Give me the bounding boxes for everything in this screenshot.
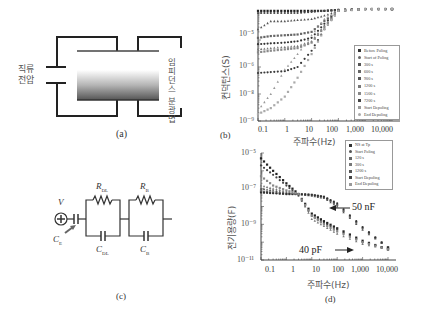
circle-marker-icon [358, 92, 361, 95]
panel-d-capacitance-chart: 전기용량(F) 10⁻⁵ 10⁻⁷ 10⁻⁹ 10⁻¹¹ 0.1 1 10 10… [211, 150, 422, 321]
ytick-b-2: 10⁻⁸ [239, 89, 254, 98]
square-marker-icon [358, 85, 361, 88]
square-marker-icon [358, 99, 361, 102]
triangle-left-marker-icon [349, 176, 352, 179]
circle-marker-icon [358, 113, 361, 116]
xtick-d-1: 1 [291, 265, 295, 274]
legend-item: Start of Poling [358, 54, 396, 61]
xtick-b-1: 1 [285, 125, 289, 134]
legend-item: 300 s [358, 61, 396, 68]
square-marker-icon [349, 144, 352, 147]
legend-item: End Depoling [349, 181, 389, 188]
xtick-d-3: 100 [332, 265, 344, 274]
caption-a: (a) [116, 128, 127, 139]
xtick-d-4: 1,000 [351, 265, 369, 274]
legend-item: 900 s [358, 75, 396, 82]
triangle-down-marker-icon [358, 70, 361, 73]
legend-item: Before Poling [358, 47, 396, 54]
annotation-50nF: 50 nF [352, 201, 375, 212]
xtick-d-2: 10 [312, 265, 320, 274]
ytick-b-0: 10⁻⁵ [239, 29, 254, 38]
dc-voltage-label: 직류 전압 [18, 64, 34, 86]
legend-item: 1200 s [358, 82, 396, 89]
xtick-b-5: 10,000 [371, 125, 393, 134]
triangle-down-marker-icon [349, 163, 352, 166]
star-marker-icon [358, 106, 361, 109]
label-RB: RB [140, 181, 149, 193]
ytick-d-0: 10⁻⁵ [241, 148, 256, 157]
x-axis-label-d: 주파수(Hz) [307, 278, 350, 291]
legend-item: 1500 s [358, 90, 396, 97]
y-axis-label-capacitance: 전기용량(F) [225, 206, 238, 250]
label-CE: CE [53, 234, 62, 246]
circle-marker-icon [358, 56, 361, 59]
label-V: V [58, 197, 64, 207]
xtick-d-5: 10,000 [376, 265, 398, 274]
ytick-d-1: 10⁻⁷ [241, 183, 256, 192]
triangle-right-marker-icon [349, 183, 352, 186]
legend-d: NS at Tp Start Poling 120 s 300 s 1200 s… [345, 140, 393, 190]
caption-d: (d) [325, 294, 336, 304]
panel-c-equivalent-circuit: V CE RDL RB CDL CB (c) [0, 160, 211, 321]
diamond-marker-icon [358, 77, 361, 80]
label-RDL: RDL [96, 181, 108, 193]
triangle-marker-icon [349, 157, 352, 160]
label-CDL: CDL [96, 244, 109, 256]
legend-item: 7200 s [358, 97, 396, 104]
xtick-b-3: 100 [326, 125, 338, 134]
y-axis-label-conductance: 컨덕턴스(S) [219, 55, 232, 100]
legend-item: Start Depoling [358, 104, 396, 111]
triangle-marker-icon [358, 63, 361, 66]
diamond-marker-icon [349, 170, 352, 173]
caption-c: (c) [116, 291, 126, 301]
ytick-d-3: 10⁻¹¹ [237, 255, 254, 264]
square-marker-icon [358, 49, 361, 52]
ytick-d-2: 10⁻⁹ [241, 219, 256, 228]
legend-b: Before Poling Start of Poling 300 s 600 … [354, 45, 400, 120]
x-axis-label-b: 주파수(Hz) [293, 135, 336, 148]
xtick-b-2: 10 [305, 125, 313, 134]
xtick-b-0: 0.1 [258, 125, 268, 134]
xtick-b-4: 1,000 [346, 125, 364, 134]
ytick-b-3: 10⁻⁹ [239, 116, 254, 125]
panel-b-conductance-chart: 컨덕턴스(S) 10⁻⁵ 10⁻⁶ 10⁻⁸ 10⁻⁹ 0.1 1 10 100… [211, 0, 422, 150]
legend-item: 600 s [358, 68, 396, 75]
panel-a-schematic: 직류 전압 임피던스 분광법 (a) [0, 0, 211, 150]
circle-marker-icon [349, 150, 352, 153]
caption-b: (b) [220, 130, 231, 140]
annotation-40pF: 40 pF [299, 244, 322, 255]
label-CB: CB [140, 244, 149, 256]
ytick-b-1: 10⁻⁶ [239, 61, 254, 70]
legend-item: End Depoling [358, 111, 396, 118]
xtick-d-0: 0.1 [265, 265, 275, 274]
impedance-spectroscopy-label: 임피던스 분광법 [166, 58, 176, 124]
